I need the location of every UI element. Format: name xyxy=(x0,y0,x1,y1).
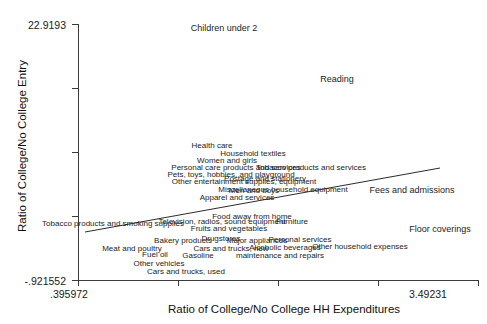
point-label-fees-admissions: Fees and admissions xyxy=(369,186,454,195)
point-label-gasoline: Gasoline xyxy=(182,251,214,260)
point-label-tobacco-products-services: Tobacco products and services xyxy=(256,163,366,172)
point-label-maintenance-repairs: maintenance and repairs xyxy=(236,251,324,260)
point-label-postage-stationery: Postage and stationery xyxy=(224,174,306,183)
point-label-other-household-expenses: Other household expenses xyxy=(312,242,408,251)
point-label-reading: Reading xyxy=(320,75,354,84)
point-label-children-under-2: Children under 2 xyxy=(191,24,258,33)
point-label-furniture: Furniture xyxy=(276,217,308,226)
point-label-cars-trucks-used: Cars and trucks, used xyxy=(147,267,225,276)
plot-area: Children under 2 Reading Health care Hou… xyxy=(0,0,487,324)
point-label-floor-coverings: Floor coverings xyxy=(409,225,471,234)
point-label-fruits-vegetables: Fruits and vegetables xyxy=(191,224,268,233)
point-label-apparel-services: Apparel and services xyxy=(200,193,275,202)
scatter-plot-figure: 22.9193 -.921552 Ratio of College/No Col… xyxy=(0,0,487,324)
point-label-fuel-oil: Fuel oil xyxy=(142,250,168,259)
